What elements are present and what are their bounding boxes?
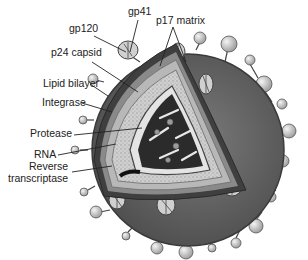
label-p17-matrix: p17 matrix: [156, 15, 205, 26]
label-reverse-transcriptase-line2: transcriptase: [8, 173, 68, 184]
label-protease: Protease: [30, 128, 72, 139]
label-integrase: Integrase: [42, 97, 86, 108]
label-reverse-transcriptase-line1: Reverse: [29, 161, 68, 172]
label-rna: RNA: [34, 149, 56, 160]
label-gp41: gp41: [128, 6, 151, 17]
label-gp120: gp120: [69, 23, 98, 34]
label-lipid-bilayer: Lipid bilayer: [43, 78, 99, 89]
label-p24-capsid: p24 capsid: [51, 47, 102, 58]
